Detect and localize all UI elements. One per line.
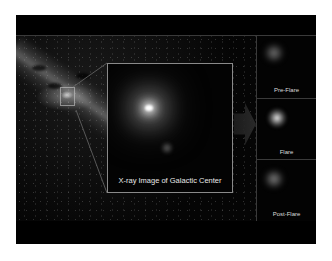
panel-post-flare: Post-Flare (257, 160, 316, 221)
post-flare-label: Post-Flare (257, 211, 316, 217)
xray-inset: X-ray Image of Galactic Center (107, 63, 233, 193)
panel-pre-flare: Pre-Flare (257, 35, 316, 98)
faint-source (163, 144, 171, 152)
figure-frame: Infrared View of Milky Way X-ray Image o… (16, 15, 316, 244)
top-band (16, 15, 316, 35)
xray-caption: X-ray Image of Galactic Center (108, 176, 232, 185)
sgr-a-core (145, 105, 153, 111)
flare-label: Flare (257, 149, 316, 155)
pre-flare-label: Pre-Flare (257, 87, 316, 93)
pre-flare-source (265, 45, 283, 61)
post-flare-source (265, 171, 283, 187)
flare-source (267, 108, 287, 128)
bottom-band (16, 221, 316, 244)
panel-flare: Flare (257, 99, 316, 159)
top-divider (16, 35, 316, 36)
